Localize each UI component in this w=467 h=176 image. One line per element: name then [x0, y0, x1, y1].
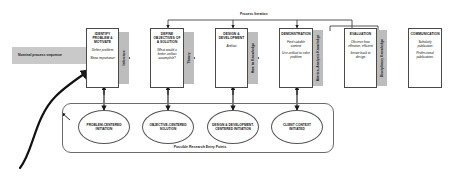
- process-iteration-label: Process Iteration: [240, 12, 268, 16]
- step-identify-problem-header: Identify Problem & Motivate: [87, 32, 118, 45]
- band-theory-label: Theory: [187, 52, 191, 63]
- research-entry-points-label: Possible Research Entry Points: [140, 145, 260, 149]
- entry-point-client-context[interactable]: Client Context Initiated: [271, 110, 323, 144]
- entry-point-objective-centered-label: Objective-Centered Solution: [143, 123, 193, 131]
- step-identify-problem[interactable]: Identify Problem & Motivate Define probl…: [86, 28, 119, 88]
- entry-point-arrows: [104, 86, 297, 95]
- step-define-objectives[interactable]: Define Objectives of a Solution What wou…: [150, 28, 184, 88]
- step-design-development-line-0: Artifact: [225, 44, 239, 48]
- entry-point-design-development-centered-label: Design & Development-Centered Initiation: [208, 123, 258, 131]
- entry-point-client-context-label: Client Context Initiated: [272, 123, 322, 131]
- step-evaluation[interactable]: Evaluation Observe how effective, effici…: [344, 28, 377, 88]
- entry-point-design-development-centered[interactable]: Design & Development-Centered Initiation: [207, 110, 259, 144]
- step-identify-problem-line-1: Show importance: [88, 56, 117, 60]
- step-communication-line-1: Professional publications: [409, 51, 441, 59]
- band-metrics-analysis-knowledge: Metrics, Analysis Knowledge: [313, 30, 323, 86]
- entry-point-problem-centered-label: Problem-Centered Initiation: [79, 123, 129, 131]
- band-how-to-knowledge-label: How to Knowledge: [251, 43, 255, 73]
- step-communication-line-0: Scholarly publication: [409, 40, 441, 48]
- step-evaluation-line-1: Iterate back to design: [345, 51, 376, 59]
- step-design-development[interactable]: Design & Development Artifact: [215, 28, 248, 88]
- step-evaluation-line-0: Observe how effective, efficient: [345, 40, 376, 48]
- entry-point-objective-centered[interactable]: Objective-Centered Solution: [142, 110, 194, 144]
- nominal-process-sequence-label: Nominal process sequence: [18, 53, 62, 58]
- band-inference-label: Inference: [122, 50, 126, 65]
- nominal-process-sequence-bar: Nominal process sequence: [12, 47, 96, 64]
- step-communication[interactable]: Communication Scholarly publication Prof…: [408, 28, 442, 88]
- band-disciplinary-knowledge-label: Disciplinary Knowledge: [380, 39, 384, 77]
- band-disciplinary-knowledge: Disciplinary Knowledge: [377, 30, 387, 86]
- step-communication-header: Communication: [408, 32, 441, 36]
- process-iteration-bus: [168, 20, 352, 31]
- step-evaluation-header: Evaluation: [348, 32, 373, 36]
- step-define-objectives-line-0: What would a better artifact accomplish?: [151, 48, 183, 60]
- step-demonstration-header: Demonstration: [279, 32, 313, 36]
- band-metrics-analysis-knowledge-label: Metrics, Analysis Knowledge: [316, 35, 320, 82]
- band-theory: Theory: [184, 32, 194, 84]
- step-design-development-header: Design & Development: [216, 32, 247, 40]
- step-define-objectives-header: Define Objectives of a Solution: [151, 32, 183, 45]
- step-demonstration[interactable]: Demonstration Find suitable context Use …: [279, 28, 313, 88]
- band-inference: Inference: [119, 32, 129, 84]
- entry-point-problem-centered[interactable]: Problem-Centered Initiation: [78, 110, 130, 144]
- step-identify-problem-line-0: Define problem: [90, 48, 116, 52]
- band-how-to-knowledge: How to Knowledge: [248, 32, 258, 84]
- step-demonstration-line-1: Use artifact to solve problem: [280, 51, 312, 59]
- step-demonstration-line-0: Find suitable context: [280, 40, 312, 48]
- dsrm-diagram: Nominal process sequence Process Iterati…: [0, 0, 467, 176]
